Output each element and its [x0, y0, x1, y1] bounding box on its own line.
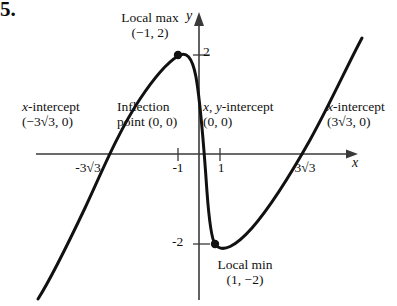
- x-axis: [36, 150, 358, 159]
- local-max-point: [174, 51, 182, 59]
- x-tick-label-3root3: 3√3: [295, 160, 316, 176]
- x-intercept-left-annotation: x-intercept (−3√3, 0): [22, 99, 80, 129]
- local-max-coords: (−1, 2): [100, 25, 200, 40]
- x-axis-label: x: [352, 155, 358, 171]
- local-max-title: Local max: [100, 10, 200, 25]
- local-min-title: Local min: [190, 257, 300, 272]
- xy-intercept-title: x, y-intercept: [203, 99, 273, 114]
- local-max-annotation: Local max (−1, 2): [100, 10, 200, 40]
- xy-intercept-annotation: x, y-intercept (0, 0): [203, 99, 273, 129]
- x-intercept-left-title: x-intercept: [22, 99, 80, 114]
- x-intercept-right-title: x-intercept: [327, 99, 385, 114]
- x-tick-label-neg3root3: -3√3: [75, 160, 100, 176]
- y-tick-label-2: 2: [203, 44, 210, 60]
- x-intercept-right-annotation: x-intercept (3√3, 0): [327, 99, 385, 129]
- local-min-annotation: Local min (1, −2): [190, 257, 300, 287]
- xy-intercept-coords: (0, 0): [203, 114, 273, 129]
- x-tick-label-1: 1: [218, 160, 225, 176]
- inflection-title2: point (0, 0): [117, 114, 177, 129]
- inflection-title: Inflection: [117, 99, 177, 114]
- inflection-point-annotation: Inflection point (0, 0): [117, 99, 177, 129]
- x-intercept-right-coords: (3√3, 0): [327, 114, 385, 129]
- local-min-point: [211, 240, 219, 248]
- y-tick-label-neg2: -2: [172, 234, 183, 250]
- x-tick-label-neg1: -1: [172, 160, 183, 176]
- figure-container: 5. y x -3√3: [0, 0, 397, 306]
- x-intercept-left-coords: (−3√3, 0): [22, 114, 80, 129]
- local-min-coords: (1, −2): [190, 272, 300, 287]
